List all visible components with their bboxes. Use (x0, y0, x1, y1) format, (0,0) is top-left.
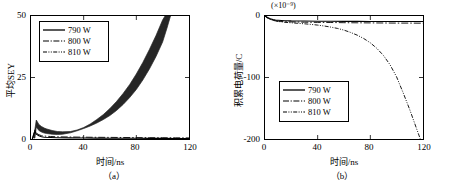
panel-a-ytick-25: 25 (8, 72, 26, 82)
panel-a-xtick-0: 0 (21, 142, 39, 152)
legend-item-790w: 790 W (43, 24, 105, 35)
legend-label-790w: 790 W (308, 85, 331, 95)
legend-label-810w: 810 W (308, 107, 331, 117)
series-800w-line (265, 16, 423, 23)
legend-label-790w: 790 W (68, 25, 91, 35)
panel-b-xtick-120: 120 (413, 142, 435, 152)
panel-b: 积累电荷量/C (×10⁻⁹) 0 -100 -200 (228, 0, 456, 187)
panel-a-ytick-50: 50 (8, 10, 26, 20)
legend-item-800w: 800 W (283, 95, 345, 106)
legend-key-solid (43, 25, 65, 35)
legend-label-800w: 800 W (68, 36, 91, 46)
panel-b-axes: 790 W 800 W 810 W (264, 15, 424, 140)
panel-a-caption: （a） (0, 169, 228, 182)
legend-key-solid (283, 85, 305, 95)
legend-key-dashdotdot (283, 107, 305, 117)
panel-b-caption: （b） (228, 169, 456, 182)
legend-item-810w: 810 W (43, 46, 105, 57)
legend-key-dashdot (43, 36, 65, 46)
panel-b-xtick-80: 80 (360, 142, 378, 152)
series-790w-line (265, 16, 423, 22)
legend-key-dashdot (283, 96, 305, 106)
legend-label-800w: 800 W (308, 96, 331, 106)
panel-b-exponent-label: (×10⁻⁹) (271, 1, 296, 10)
legend-key-dashdotdot (43, 47, 65, 57)
panel-a-axes: 790 W 800 W 810 W (30, 15, 190, 140)
panel-a-xtick-40: 40 (74, 142, 92, 152)
panel-b-xtick-0: 0 (255, 142, 273, 152)
panel-a-xtick-80: 80 (126, 142, 144, 152)
legend-label-810w: 810 W (68, 47, 91, 57)
panel-b-ytick-100: -100 (230, 72, 260, 82)
legend-item-810w: 810 W (283, 106, 345, 117)
panel-b-xtick-40: 40 (308, 142, 326, 152)
legend-item-800w: 800 W (43, 35, 105, 46)
panel-b-xlabel: 时间/ns (264, 155, 424, 168)
panel-a-legend: 790 W 800 W 810 W (39, 21, 109, 62)
panel-a: 平均SEY 50 25 0 (0, 0, 228, 187)
panel-a-xlabel: 时间/ns (30, 155, 190, 168)
panel-a-xtick-120: 120 (179, 142, 201, 152)
legend-item-790w: 790 W (283, 84, 345, 95)
panel-b-legend: 790 W 800 W 810 W (279, 81, 349, 122)
figure-two-panel: 平均SEY 50 25 0 (0, 0, 456, 187)
panel-b-ytick-0: 0 (238, 10, 260, 20)
